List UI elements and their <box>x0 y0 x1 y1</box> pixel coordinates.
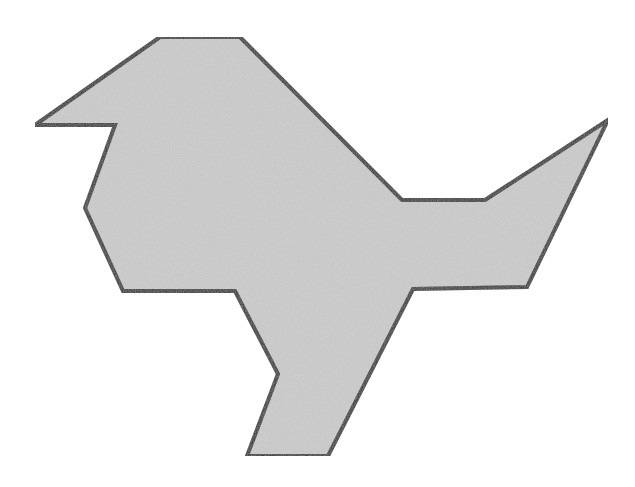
tangram-bird-figure <box>0 0 635 487</box>
